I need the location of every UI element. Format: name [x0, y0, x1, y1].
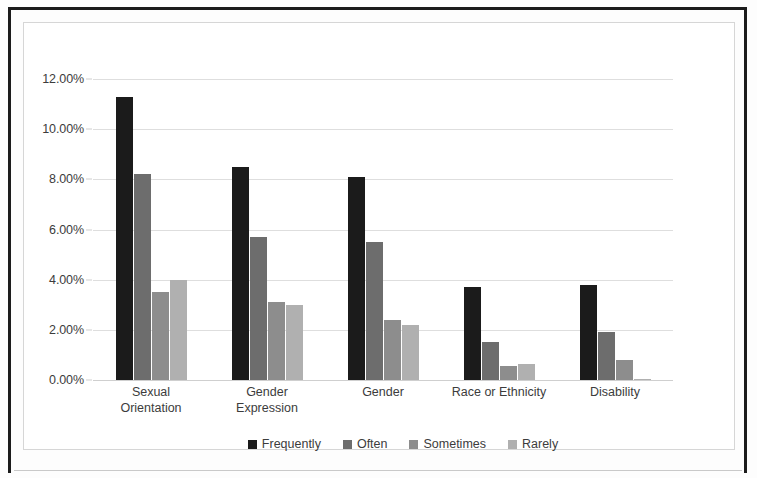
y-axis-tick-label: 8.00% [49, 172, 84, 186]
bar[interactable] [116, 97, 133, 380]
bar-group [325, 79, 441, 380]
bar[interactable] [634, 379, 651, 380]
bar[interactable] [366, 242, 383, 380]
category-label-line: Gender [325, 385, 441, 401]
bar[interactable] [384, 320, 401, 380]
legend-label: Frequently [262, 437, 321, 451]
bar[interactable] [170, 280, 187, 380]
y-axis-tick-label: 4.00% [49, 273, 84, 287]
plot-area: 12.00%10.00%8.00%6.00%4.00%2.00%0.00% [93, 79, 673, 380]
bar[interactable] [580, 285, 597, 380]
category-label-line: Gender [209, 385, 325, 401]
bar[interactable] [348, 177, 365, 380]
y-axis-tick-mark [86, 329, 92, 330]
category-label: Gender [325, 385, 441, 427]
category-label-line: Sexual [93, 385, 209, 401]
bar[interactable] [616, 360, 633, 380]
bar-group [93, 79, 209, 380]
bar[interactable] [268, 302, 285, 380]
legend-item[interactable]: Rarely [508, 437, 558, 451]
y-axis-tick-mark [86, 229, 92, 230]
y-axis-tick-mark [86, 279, 92, 280]
legend-label: Rarely [522, 437, 558, 451]
legend-swatch-icon [343, 440, 352, 449]
scanned-page: 12.00%10.00%8.00%6.00%4.00%2.00%0.00% Se… [0, 0, 757, 478]
chart-legend: FrequentlyOftenSometimesRarely [47, 437, 757, 451]
category-label-line: Race or Ethnicity [441, 385, 557, 401]
gridline: 0.00% [93, 380, 673, 381]
y-axis-tick-mark [86, 380, 92, 381]
legend-item[interactable]: Frequently [248, 437, 321, 451]
bar[interactable] [134, 174, 151, 380]
page-edge-left [8, 7, 11, 473]
category-label: Race or Ethnicity [441, 385, 557, 427]
bar[interactable] [598, 332, 615, 380]
y-axis-tick-mark [86, 179, 92, 180]
bar-series-layer [93, 79, 673, 380]
bar[interactable] [250, 237, 267, 380]
bar[interactable] [402, 325, 419, 380]
bar-group [209, 79, 325, 380]
y-axis-tick-label: 2.00% [49, 323, 84, 337]
legend-swatch-icon [409, 440, 418, 449]
category-label-line: Orientation [93, 401, 209, 417]
category-label: SexualOrientation [93, 385, 209, 427]
legend-label: Sometimes [423, 437, 486, 451]
bar-group [557, 79, 673, 380]
bar[interactable] [482, 342, 499, 380]
legend-swatch-icon [508, 440, 517, 449]
y-axis-tick-mark [86, 129, 92, 130]
legend-swatch-icon [248, 440, 257, 449]
y-axis-tick-mark [86, 79, 92, 80]
bar[interactable] [232, 167, 249, 380]
y-axis-tick-label: 12.00% [42, 72, 84, 86]
page-bottom-rule [14, 470, 742, 471]
bar[interactable] [152, 292, 169, 380]
page-edge-right [744, 7, 747, 473]
bar[interactable] [518, 364, 535, 380]
chart-frame: 12.00%10.00%8.00%6.00%4.00%2.00%0.00% Se… [23, 22, 735, 450]
category-label-line: Disability [557, 385, 673, 401]
bar[interactable] [500, 366, 517, 380]
category-label: Disability [557, 385, 673, 427]
y-axis-tick-label: 10.00% [42, 122, 84, 136]
legend-item[interactable]: Sometimes [409, 437, 486, 451]
category-label-line: Expression [209, 401, 325, 417]
legend-item[interactable]: Often [343, 437, 388, 451]
y-axis-tick-label: 0.00% [49, 373, 84, 387]
bar-group [441, 79, 557, 380]
category-label: GenderExpression [209, 385, 325, 427]
legend-label: Often [357, 437, 388, 451]
page-edge-top [8, 7, 747, 10]
category-axis: SexualOrientationGenderExpressionGenderR… [93, 385, 673, 427]
bar[interactable] [464, 287, 481, 380]
bar[interactable] [286, 305, 303, 380]
y-axis-tick-label: 6.00% [49, 223, 84, 237]
